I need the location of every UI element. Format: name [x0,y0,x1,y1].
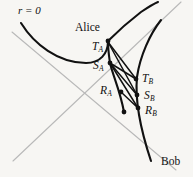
event-label-RA: RA [100,85,112,98]
singularity-label: r = 0 [18,5,41,16]
event-dot-RB [136,106,141,111]
event-label-TB: TB [142,73,153,86]
event-label-SB-subscript: B [150,94,155,103]
event-label-RB-subscript: B [152,109,157,118]
bob-label: Bob [161,156,180,168]
event-label-RB-base: R [145,104,152,116]
event-dot-TB [134,77,139,82]
event-label-SA-subscript: A [99,64,104,73]
event-label-RB: RB [145,105,157,118]
event-label-SA-base: S [93,59,99,71]
event-label-SA: SA [93,60,104,73]
event-label-RA-subscript: A [107,89,112,98]
event-label-SB-base: S [144,89,150,101]
event-dot-RA [119,90,124,95]
event-label-TA-base: T [92,40,98,52]
event-label-TA: TA [92,41,103,54]
event-dot-alice-end [122,110,127,115]
event-label-SB: SB [144,90,155,103]
event-dot-TA [106,39,111,44]
event-dot-SA [108,61,113,66]
event-label-TB-subscript: B [149,77,154,86]
event-label-TA-subscript: A [99,45,104,54]
spacetime-diagram: r = 0 Alice Bob TA SA RA TB SB RB [0,0,193,177]
event-dot-SB [135,93,140,98]
event-label-RA-base: R [100,84,107,96]
alice-label: Alice [75,22,100,34]
event-label-TB-base: T [142,72,148,84]
